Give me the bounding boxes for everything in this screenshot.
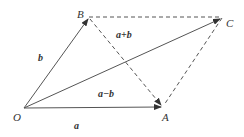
vector-a-arrow <box>24 107 161 108</box>
vector-label-a: a <box>74 120 79 131</box>
vector-label-a-plus-b: a+b <box>116 29 132 40</box>
point-label-C: C <box>226 17 234 29</box>
point-label-B: B <box>77 8 84 20</box>
diagram-canvas: O A B C a b a+b a−b <box>0 0 244 137</box>
point-label-A: A <box>161 111 169 123</box>
vector-parallelogram-diagram: O A B C a b a+b a−b <box>0 0 244 137</box>
vector-label-a-minus-b: a−b <box>98 88 114 99</box>
vector-b-arrow <box>24 19 88 108</box>
point-label-O: O <box>13 111 21 123</box>
vector-label-b: b <box>38 52 43 63</box>
